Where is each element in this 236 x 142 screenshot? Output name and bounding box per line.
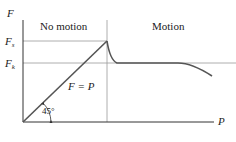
line-equation-label: F = P xyxy=(67,80,95,92)
angle-label: 45° xyxy=(42,106,55,116)
fs-tick-label: Fs xyxy=(4,35,15,49)
x-axis-label: P xyxy=(217,115,225,127)
no-motion-label: No motion xyxy=(40,20,88,32)
static-friction-line xyxy=(23,41,107,122)
kinetic-friction-curve xyxy=(107,41,212,76)
motion-label: Motion xyxy=(152,20,185,32)
friction-diagram: F P Fs Fk No motion Motion F = P 45° xyxy=(0,0,236,142)
y-axis-label: F xyxy=(6,7,14,19)
fk-tick-label: Fk xyxy=(4,57,16,71)
